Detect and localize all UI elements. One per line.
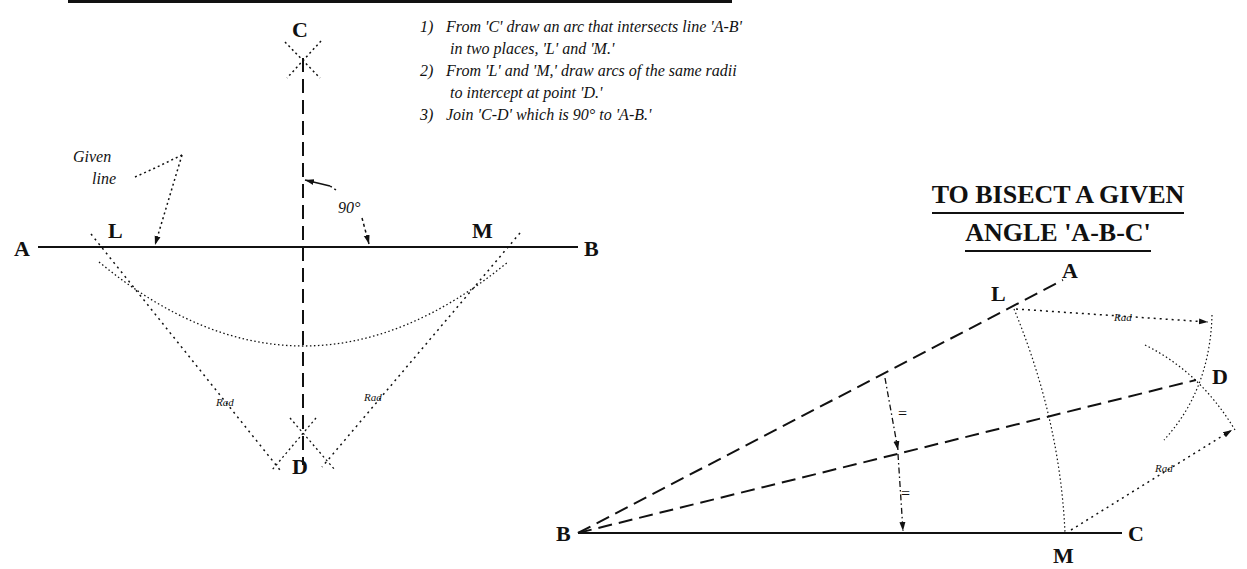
step-text: Join 'C-D' which is 90° to 'A-B.'	[446, 104, 800, 126]
point-b-right: B	[556, 521, 571, 546]
angle-label: 90°	[338, 199, 361, 216]
arc-from-b	[1014, 309, 1065, 533]
given-label-line1: Given	[73, 148, 111, 165]
point-a: A	[14, 236, 30, 261]
point-a-right: A	[1062, 258, 1078, 283]
equal-mark-upper: =	[897, 405, 908, 422]
given-label-line2: line	[92, 170, 116, 187]
instruction-step-3: 3) Join 'C-D' which is 90° to 'A-B.'	[420, 104, 800, 126]
point-b: B	[584, 236, 599, 261]
point-l-right: L	[991, 281, 1006, 306]
line-b-a	[578, 280, 1063, 533]
step-number: 3)	[420, 104, 433, 126]
step-number: 2)	[420, 60, 433, 82]
step-text-continued: to intercept at point 'D.'	[446, 82, 800, 104]
instruction-step-1: 1) From 'C' draw an arc that intersects …	[420, 16, 800, 60]
rad-label-top: Rad	[1113, 311, 1132, 323]
step-text-continued: in two places, 'L' and 'M.'	[446, 38, 800, 60]
rad-label-bottom: Rad	[1154, 462, 1173, 474]
bisect-angle-construction: A B C D L M = = Rad Rad	[556, 258, 1235, 568]
rad-label-right: Rad	[363, 391, 382, 403]
instruction-list: 1) From 'C' draw an arc that intersects …	[420, 16, 800, 126]
point-l: L	[108, 218, 123, 243]
rad-label-left: Rad	[215, 396, 234, 408]
equal-mark-lower: =	[900, 485, 911, 502]
point-d-right: D	[1212, 364, 1228, 389]
point-d: D	[292, 454, 308, 479]
step-text: From 'L' and 'M,' draw arcs of the same …	[446, 60, 800, 82]
bisect-title-line2: ANGLE 'A-B-C'	[965, 216, 1151, 252]
step-number: 1)	[420, 16, 433, 38]
point-c: C	[292, 17, 308, 42]
point-c-right: C	[1128, 521, 1144, 546]
bisect-title-line1: TO BISECT A GIVEN	[932, 178, 1185, 214]
point-m-right: M	[1053, 543, 1074, 568]
step-text: From 'C' draw an arc that intersects lin…	[446, 16, 800, 38]
bisect-title: TO BISECT A GIVEN ANGLE 'A-B-C'	[888, 176, 1228, 252]
instruction-step-2: 2) From 'L' and 'M,' draw arcs of the sa…	[420, 60, 800, 104]
point-m: M	[472, 218, 493, 243]
